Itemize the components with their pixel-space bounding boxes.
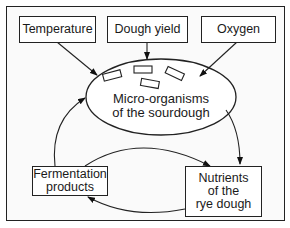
input-oxygen: Oxygen <box>201 16 276 43</box>
input-temperature: Temperature <box>19 16 96 43</box>
microorganisms-label: Micro-organisms of the sourdough <box>96 92 226 120</box>
fermentation-products-box: Fermentation products <box>32 166 108 196</box>
nutrients-box: Nutrients of the rye dough <box>185 166 262 217</box>
input-dough-yield: Dough yield <box>107 16 188 43</box>
